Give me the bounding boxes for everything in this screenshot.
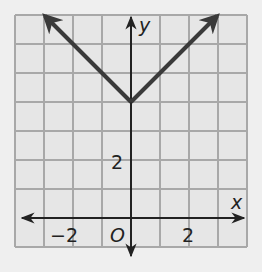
origin-label: O <box>110 226 125 245</box>
x-tick-label-neg2: −2 <box>50 226 78 245</box>
x-axis-label: x <box>231 193 242 212</box>
coordinate-graph <box>0 0 262 272</box>
y-tick-label-2: 2 <box>111 153 123 172</box>
x-tick-label-2: 2 <box>182 226 194 245</box>
y-axis-label: y <box>139 16 150 35</box>
